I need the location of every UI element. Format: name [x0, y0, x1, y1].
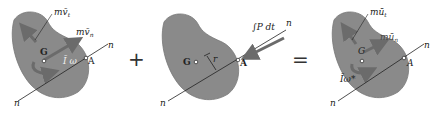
impulse-arrow	[246, 38, 284, 57]
plus-operator: +	[128, 47, 145, 71]
label-n-bottom: n	[160, 98, 166, 108]
panel-impulse: ∫P dt G r A n n	[160, 14, 292, 108]
label-n-bottom: n	[14, 98, 20, 108]
label-mv-n: mv̄n	[76, 27, 94, 38]
label-mv-t: mv̄t	[54, 7, 71, 18]
label-g: G	[183, 57, 191, 67]
label-g: G	[40, 47, 48, 57]
label-n-top: n	[286, 18, 292, 28]
label-n-top: n	[108, 40, 114, 50]
impulse-momentum-diagram: mv̄t mv̄n G Ī ω A n n + ∫P dt G r A n n …	[0, 0, 436, 113]
rigid-body-shape	[332, 12, 408, 98]
label-mu-t: mūt	[370, 7, 387, 18]
equals-operator: =	[292, 47, 309, 71]
label-n-bottom: n	[330, 98, 336, 108]
label-a: A	[87, 56, 95, 66]
label-iw: Ī ω	[62, 55, 77, 66]
label-impulse: ∫P dt	[252, 22, 275, 32]
label-a: A	[239, 58, 248, 68]
mass-center-point	[42, 59, 46, 63]
point-a	[402, 56, 406, 60]
label-mu-n: mūn	[380, 32, 398, 43]
label-iw: Īω*	[339, 73, 356, 84]
label-g: G	[358, 46, 365, 56]
panel-momentum-before: mv̄t mv̄n G Ī ω A n n	[12, 7, 114, 108]
panel-momentum-after: mūt mūn G Īω* A n n	[330, 7, 430, 108]
mass-center-point	[360, 59, 364, 63]
mass-center-point	[194, 60, 198, 64]
label-a: A	[406, 58, 414, 68]
label-r: r	[213, 54, 218, 64]
rigid-body-shape	[162, 14, 238, 100]
label-n-top: n	[424, 40, 430, 50]
